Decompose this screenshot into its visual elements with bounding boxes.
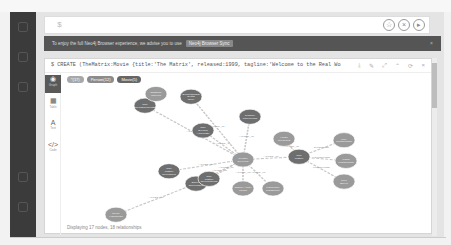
svg-text:Something's: Something's [182, 92, 200, 95]
graph-node-joel[interactable]: JoelSilver [333, 174, 355, 189]
tab-graph[interactable]: ◉ Graph [45, 75, 61, 93]
table-icon: ▦ [50, 97, 57, 104]
svg-text:Mnemonic: Mnemonic [243, 116, 258, 119]
svg-text:The: The [296, 154, 302, 157]
svg-text:Matrix: Matrix [295, 156, 304, 159]
graph-node-hugo[interactable]: HugoWeaving [273, 131, 295, 146]
relationship-label: ACTED_IN [264, 155, 279, 158]
graph-node-lana[interactable]: LanaWachowski [335, 153, 357, 168]
svg-text:The: The [200, 126, 206, 129]
top-strip [0, 0, 451, 12]
editor-prompt: $ [57, 20, 62, 29]
graph-node-matrix[interactable]: TheMatrix [288, 149, 310, 164]
rerun-icon[interactable]: ⟳ [408, 62, 413, 69]
favorites-icon[interactable] [18, 52, 28, 62]
svg-text:The: The [206, 174, 212, 177]
status-text: Displaying 17 nodes, 18 relationships [67, 225, 142, 230]
graph-node-something[interactable]: Something'sGottaGive [180, 89, 202, 104]
pin-icon[interactable]: ✎ [369, 62, 374, 69]
graph-node-laurence[interactable]: LaurenceFishburne [262, 181, 284, 196]
tab-table[interactable]: ▦ Table [45, 97, 61, 115]
svg-text:The: The [142, 103, 148, 106]
svg-text:Hugo: Hugo [280, 136, 288, 139]
graph-node-revolutions[interactable]: TheMatrixRevolutions [198, 171, 220, 186]
scrollbar-thumb[interactable] [432, 63, 437, 108]
browser-sync-button[interactable]: Neo4j Browser Sync [186, 40, 233, 47]
relationship-label: PRODUCED [313, 166, 330, 169]
scrollbar[interactable] [432, 58, 437, 236]
graph-node-charlize[interactable]: CharlizeTheron [145, 86, 167, 101]
relationship-label: ACTED_IN [219, 166, 234, 169]
code-icon: </> [48, 141, 58, 148]
close-circle-icon[interactable]: × [398, 19, 410, 31]
close-icon[interactable]: × [430, 40, 433, 46]
pill-all[interactable]: *(17) [67, 76, 84, 83]
frame-view-switcher: ◉ Graph ▦ Table A Text </> Code [45, 73, 61, 235]
svg-text:Silver: Silver [340, 181, 348, 184]
svg-text:The: The [166, 167, 172, 170]
frame-tools: ⤓ ✎ ⤢ ⌃ ⟳ × [358, 62, 425, 69]
result-frame: $ CREATE (TheMatrix:Movie {title:'The Ma… [44, 58, 432, 234]
banner-text: To enjoy the full Neo4j Browser experien… [52, 41, 182, 46]
graph-node-carrie[interactable]: Carrie-AnneMoss [232, 181, 254, 196]
relationship-label: ACTED_IN [149, 196, 164, 199]
svg-text:Joel: Joel [341, 179, 347, 182]
frame-header: $ CREATE (TheMatrix:Movie {title:'The Ma… [45, 59, 431, 73]
svg-text:Laurence: Laurence [266, 185, 280, 188]
divider [10, 237, 446, 238]
cloud-icon[interactable] [18, 172, 28, 182]
svg-text:Wachowski: Wachowski [336, 140, 352, 143]
svg-text:Gene: Gene [112, 212, 120, 215]
svg-text:Matrix: Matrix [205, 177, 214, 180]
svg-text:Replacements: Replacements [135, 105, 156, 108]
database-icon[interactable] [18, 22, 28, 32]
svg-text:Hackman: Hackman [109, 214, 123, 217]
fullscreen-icon[interactable]: ⤢ [382, 62, 387, 69]
graph-node-devil[interactable]: TheDevil'sAdvocate [192, 123, 214, 138]
relationship-label: ACTED_IN [236, 171, 251, 174]
collapse-icon[interactable]: ⌃ [395, 62, 400, 69]
graph-node-gene[interactable]: GeneHackman [105, 207, 127, 222]
query-editor[interactable]: $ ☆ × ▸ [44, 16, 430, 34]
svg-text:Lilly: Lilly [341, 137, 347, 140]
graph-node-lilly[interactable]: LillyWachowski [333, 133, 355, 148]
svg-text:Devil's: Devil's [198, 129, 208, 132]
graph-node-reloaded[interactable]: TheMatrixReloaded [158, 164, 180, 179]
left-navigation-bar [10, 12, 36, 237]
close-frame-icon[interactable]: × [421, 62, 425, 69]
tab-text[interactable]: A Text [45, 119, 61, 137]
sync-banner: To enjoy the full Neo4j Browser experien… [44, 36, 441, 51]
download-icon[interactable]: ⤓ [358, 62, 361, 69]
label-pills: *(17) Person(12) Movie(5) [67, 76, 141, 83]
relationship-label: DIRECTED [314, 145, 329, 148]
svg-text:Carrie-Anne: Carrie-Anne [234, 185, 252, 188]
svg-text:Lana: Lana [342, 158, 350, 161]
settings-icon[interactable] [18, 202, 28, 212]
graph-node-keanu[interactable]: KeanuReeves [232, 152, 254, 167]
browser-app: $ ☆ × ▸ To enjoy the full Neo4j Browser … [36, 12, 444, 237]
graph-node-mnemonic[interactable]: JohnnyMnemonic [239, 109, 261, 124]
svg-text:Reeves: Reeves [238, 159, 250, 162]
svg-text:Keanu: Keanu [238, 156, 248, 159]
relationship-label: ACTED_IN [251, 171, 266, 174]
editor-actions: ☆ × ▸ [383, 19, 425, 31]
frame-query[interactable]: $ CREATE (TheMatrix:Movie {title:'The Ma… [51, 62, 341, 68]
svg-text:Charlize: Charlize [150, 91, 162, 94]
tab-code[interactable]: </> Code [45, 141, 61, 159]
svg-text:Weaving: Weaving [278, 138, 291, 141]
graph-canvas[interactable]: ACTED_INACTED_INACTED_INACTED_INACTED_IN… [61, 85, 431, 223]
graph-icon: ◉ [50, 75, 56, 82]
pill-person[interactable]: Person(12) [87, 76, 115, 83]
play-icon[interactable]: ▸ [413, 19, 425, 31]
documents-icon[interactable] [18, 82, 28, 92]
text-icon: A [51, 119, 56, 126]
relationship-label: ACTED_IN [199, 162, 214, 165]
svg-text:Fishburne: Fishburne [266, 188, 281, 191]
svg-text:Gotta: Gotta [187, 95, 195, 98]
relationship-label: ACTED_IN [239, 135, 254, 138]
svg-text:Give: Give [188, 98, 195, 101]
svg-text:Johnny: Johnny [245, 114, 256, 117]
svg-text:Moss: Moss [239, 188, 247, 191]
pill-movie[interactable]: Movie(5) [117, 76, 141, 83]
star-icon[interactable]: ☆ [383, 19, 395, 31]
